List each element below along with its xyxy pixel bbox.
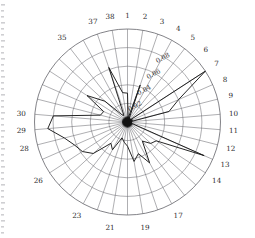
spoke-label-12: 12 bbox=[226, 144, 235, 153]
spoke-label-17: 17 bbox=[174, 211, 184, 220]
scan-artifact bbox=[1, 208, 4, 210]
scan-artifact bbox=[1, 58, 5, 60]
grid-spoke-18 bbox=[128, 122, 158, 210]
spoke-label-2: 2 bbox=[143, 12, 148, 21]
radial-tick-label-0.04: 0.04 bbox=[136, 83, 153, 97]
scan-artifact bbox=[1, 76, 5, 78]
scan-artifact bbox=[1, 232, 4, 234]
scan-artifact bbox=[1, 64, 4, 66]
spoke-label-37: 37 bbox=[88, 17, 98, 26]
scan-artifact bbox=[1, 28, 4, 30]
spoke-label-5: 5 bbox=[191, 33, 196, 42]
grid-spoke-32 bbox=[42, 85, 127, 122]
spoke-label-29: 29 bbox=[17, 126, 27, 135]
scan-artifact bbox=[1, 214, 4, 216]
spoke-label-3: 3 bbox=[160, 17, 165, 26]
scan-artifact bbox=[1, 130, 5, 132]
spoke-label-9: 9 bbox=[228, 91, 233, 100]
scan-artifact bbox=[1, 178, 4, 180]
origin-blob bbox=[123, 117, 132, 126]
spoke-label-38: 38 bbox=[105, 12, 115, 21]
polar-chart-canvas: 1234567891011121314171921232628293035373… bbox=[0, 0, 255, 238]
scan-artifact bbox=[1, 46, 4, 48]
scan-artifact bbox=[1, 154, 4, 156]
scan-artifact bbox=[1, 40, 5, 42]
spoke-label-10: 10 bbox=[229, 109, 239, 118]
scan-artifact bbox=[1, 106, 4, 108]
scan-artifact bbox=[1, 118, 4, 120]
grid-spoke-26 bbox=[50, 122, 128, 173]
scan-artifact bbox=[1, 10, 4, 12]
spoke-label-21: 21 bbox=[105, 223, 114, 232]
spoke-label-6: 6 bbox=[204, 45, 209, 54]
scan-artifact bbox=[1, 34, 4, 36]
scan-artifact bbox=[1, 112, 5, 114]
spoke-label-19: 19 bbox=[140, 223, 150, 232]
spoke-label-26: 26 bbox=[34, 176, 44, 185]
grid-spoke-22 bbox=[97, 122, 127, 210]
scan-artifact bbox=[1, 160, 4, 162]
scan-artifact bbox=[1, 220, 5, 222]
grid-spoke-28 bbox=[37, 122, 127, 145]
scan-artifact bbox=[1, 124, 4, 126]
radial-tick-label-0.08: 0.08 bbox=[154, 51, 171, 65]
spoke-label-30: 30 bbox=[17, 109, 27, 118]
scan-artifact bbox=[1, 226, 4, 228]
radial-tick-label-0.06: 0.06 bbox=[145, 67, 162, 81]
grid-spoke-15 bbox=[128, 122, 196, 185]
scan-artifact bbox=[1, 70, 4, 72]
scan-artifact bbox=[1, 136, 4, 138]
polar-chart: 1234567891011121314171921232628293035373… bbox=[0, 0, 255, 238]
scan-artifact bbox=[1, 52, 4, 54]
spoke-label-4: 4 bbox=[176, 24, 181, 33]
grid-spoke-14 bbox=[128, 122, 206, 173]
spoke-label-1: 1 bbox=[125, 11, 130, 20]
spoke-label-8: 8 bbox=[223, 75, 228, 84]
center-marker bbox=[122, 116, 133, 127]
grid-spoke-11 bbox=[128, 122, 221, 130]
scan-artifact bbox=[1, 148, 5, 150]
spoke-label-35: 35 bbox=[58, 33, 68, 42]
scan-artifact bbox=[1, 88, 4, 90]
grid-spoke-27 bbox=[42, 122, 127, 159]
scan-artifact bbox=[1, 166, 5, 168]
radial-tick-label-0.02: 0.02 bbox=[126, 99, 143, 113]
scan-artifact bbox=[1, 16, 4, 18]
scan-artifact bbox=[1, 202, 5, 204]
spoke-label-7: 7 bbox=[214, 59, 219, 68]
grid-spoke-24 bbox=[70, 122, 127, 195]
spoke-label-11: 11 bbox=[229, 126, 238, 135]
spoke-label-28: 28 bbox=[20, 144, 30, 153]
scan-artifact bbox=[1, 100, 4, 102]
scan-artifact bbox=[1, 94, 5, 96]
scan-artifact bbox=[1, 190, 4, 192]
spoke-label-14: 14 bbox=[212, 176, 222, 185]
scan-artifact bbox=[1, 196, 4, 198]
grid-spoke-31 bbox=[37, 99, 127, 122]
scan-artifact bbox=[1, 142, 4, 144]
scan-artifact bbox=[1, 184, 5, 186]
scan-artifact bbox=[1, 4, 5, 6]
edge-scan-artifacts bbox=[1, 4, 5, 234]
grid-spoke-34 bbox=[59, 59, 127, 122]
spoke-label-23: 23 bbox=[72, 211, 82, 220]
spoke-label-13: 13 bbox=[220, 160, 230, 169]
scan-artifact bbox=[1, 82, 4, 84]
scan-artifact bbox=[1, 22, 5, 24]
scan-artifact bbox=[1, 172, 4, 174]
grid-spoke-10 bbox=[128, 114, 221, 122]
